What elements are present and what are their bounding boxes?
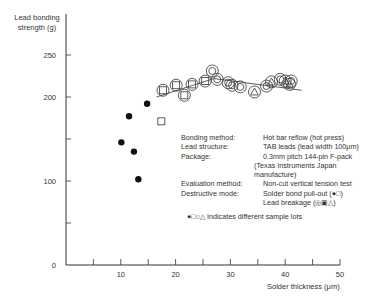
note-row: Package:0.3mm pitch 144-pin F-pack <box>181 152 367 161</box>
filled-circle-marker <box>131 148 137 154</box>
note-key <box>181 198 263 207</box>
filled-circle-marker <box>118 139 124 145</box>
outer-circle-marker <box>234 81 246 93</box>
legend-text: Indicates different sample lots <box>207 212 302 221</box>
inner-square-marker <box>181 92 188 99</box>
filled-circle-marker <box>135 176 141 182</box>
note-value: 0.3mm pitch 144-pin F-pack <box>263 152 352 161</box>
note-value: Hot bar reflow (hot press) <box>263 133 344 142</box>
note-value: Lead breakage (◎▣△) <box>263 198 336 207</box>
legend-symbols: ●□○△ <box>187 212 205 221</box>
outer-circle-marker <box>222 77 234 89</box>
note-key <box>181 161 254 180</box>
outer-circle-marker <box>178 89 190 101</box>
inner-triangle-marker <box>251 88 259 95</box>
x-tick-label: 20 <box>171 270 179 279</box>
note-key: Lead structure: <box>181 142 263 151</box>
note-row: (Texas Instruments Japan manufacture) <box>181 161 367 180</box>
y-tick-label: 200 <box>43 93 56 102</box>
note-value: TAB leads (lead width 100μm) <box>263 142 359 151</box>
outer-circle-marker <box>206 65 218 77</box>
x-tick-label: 10 <box>117 270 125 279</box>
note-value: Non-cut vertical tension test <box>263 179 352 188</box>
outer-circle-marker <box>170 79 182 91</box>
x-tick-label: 50 <box>336 270 344 279</box>
note-row: Lead breakage (◎▣△) <box>181 198 367 207</box>
note-row: Bonding method:Hot bar reflow (hot press… <box>181 133 367 142</box>
note-row: Evaluation method:Non-cut vertical tensi… <box>181 179 367 188</box>
y-tick-label: 250 <box>43 51 56 60</box>
note-row: Lead structure:TAB leads (lead width 100… <box>181 142 367 151</box>
y-tick-label: 0 <box>52 261 56 270</box>
note-row: Destructive mode:Solder bond pull-out (●… <box>181 189 367 198</box>
note-value: (Texas Instruments Japan manufacture) <box>254 161 367 180</box>
legend: ●□○△ Indicates different sample lots <box>187 212 302 221</box>
inner-circle-marker <box>209 67 216 74</box>
note-key: Package: <box>181 152 263 161</box>
filled-circle-marker <box>126 113 132 119</box>
note-value: Solder bond pull-out (●□) <box>263 189 343 198</box>
inner-square-marker <box>173 82 180 89</box>
filled-circle-marker <box>144 101 150 107</box>
inner-square-marker <box>159 87 166 94</box>
x-tick-label: 30 <box>226 270 234 279</box>
note-key: Bonding method: <box>181 133 263 142</box>
note-key: Destructive mode: <box>181 189 263 198</box>
x-axis-label: Solder thickness (μm) <box>267 282 340 291</box>
y-tick-label: 100 <box>43 177 56 186</box>
square-marker <box>158 118 165 125</box>
note-key: Evaluation method: <box>181 179 263 188</box>
x-tick-label: 40 <box>281 270 289 279</box>
experiment-notes: Bonding method:Hot bar reflow (hot press… <box>181 133 367 207</box>
